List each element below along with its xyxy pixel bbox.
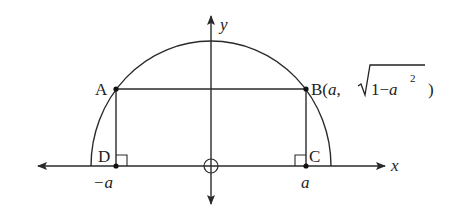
- point-C: [303, 163, 308, 168]
- label-B: B(a,: [311, 80, 341, 99]
- point-A: [113, 86, 118, 91]
- label-D: D: [98, 147, 110, 166]
- x-axis-label: x: [390, 156, 399, 175]
- point-D: [113, 163, 118, 168]
- tick-label-pos-a: a: [301, 173, 310, 192]
- label-B-close: ): [428, 80, 434, 99]
- point-B: [303, 86, 308, 91]
- y-axis-label: y: [218, 15, 228, 34]
- label-A: A: [95, 80, 108, 99]
- exponent: 2: [410, 72, 416, 84]
- diagram-canvas: y x A D C B(a, 1−a 2 ) −a a: [0, 0, 456, 212]
- tick-label-neg-a: −a: [93, 173, 113, 192]
- label-C: C: [309, 147, 320, 166]
- sqrt-content: 1−a: [371, 80, 398, 99]
